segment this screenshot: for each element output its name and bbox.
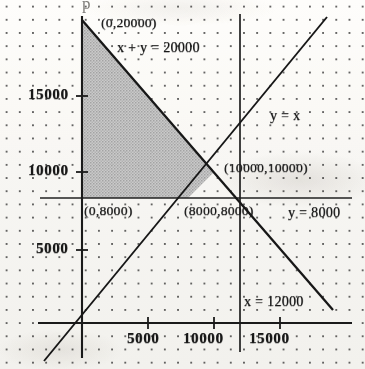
x-tick-label-5000: 5000 [127,330,159,347]
x-tick-label-10000: 10000 [183,330,224,347]
annotation-vertex-10000-10000: (10000,10000) [224,160,308,176]
y-tick-label-10000: 10000 [28,162,69,179]
annotation-line-y-8000: y = 8000 [288,205,340,221]
graph-canvas: p 15000 10000 5000 5000 10000 15000 (0,2… [0,0,365,369]
annotation-vertex-0-20000: (0,20000) [101,15,157,31]
x-tick-label-15000: 15000 [249,330,290,347]
y-tick-label-5000: 5000 [36,240,68,257]
annotation-vertex-0-8000: (0,8000) [84,203,133,219]
y-tick-label-15000: 15000 [28,86,69,103]
annotation-line-sum-20000: x + y = 20000 [117,40,200,56]
top-text-fragment: p [82,0,91,14]
annotation-line-y-equals-x: y = x [270,108,300,124]
annotation-vertex-8000-8000: (8000,8000) [184,203,254,219]
annotation-line-x-12000: x = 12000 [244,294,304,310]
